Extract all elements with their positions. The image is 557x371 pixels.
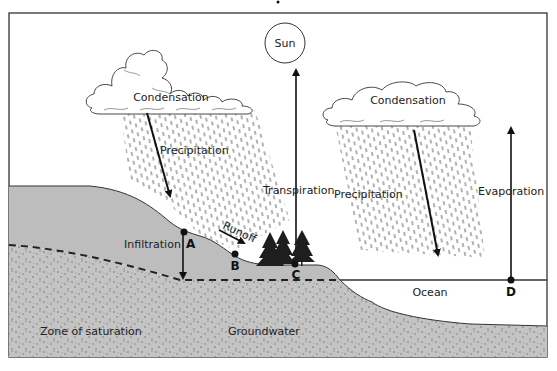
sun-label: Sun bbox=[275, 37, 296, 50]
ocean-label: Ocean bbox=[412, 286, 447, 299]
water-cycle-diagram: Sun Condensation Condensation Precipitat… bbox=[0, 0, 557, 371]
point-a-label: A bbox=[186, 237, 196, 251]
point-b: B bbox=[230, 251, 239, 274]
zone-of-saturation-label: Zone of saturation bbox=[40, 325, 142, 338]
transpiration-label: Transpiration bbox=[262, 184, 334, 197]
point-b-label: B bbox=[230, 259, 239, 273]
precipitation-left-label: Precipitation bbox=[160, 144, 229, 157]
sun: Sun bbox=[265, 23, 305, 63]
infiltration-label: Infiltration bbox=[124, 238, 181, 251]
title-fragment bbox=[277, 1, 280, 4]
precipitation-right-label: Precipitation bbox=[334, 188, 403, 201]
point-c-label: C bbox=[292, 268, 301, 282]
groundwater-label: Groundwater bbox=[228, 325, 300, 338]
condensation-left-label: Condensation bbox=[133, 91, 209, 104]
point-d-label: D bbox=[506, 285, 516, 299]
condensation-right-label: Condensation bbox=[370, 94, 446, 107]
evaporation-label: Evaporation bbox=[478, 185, 544, 198]
